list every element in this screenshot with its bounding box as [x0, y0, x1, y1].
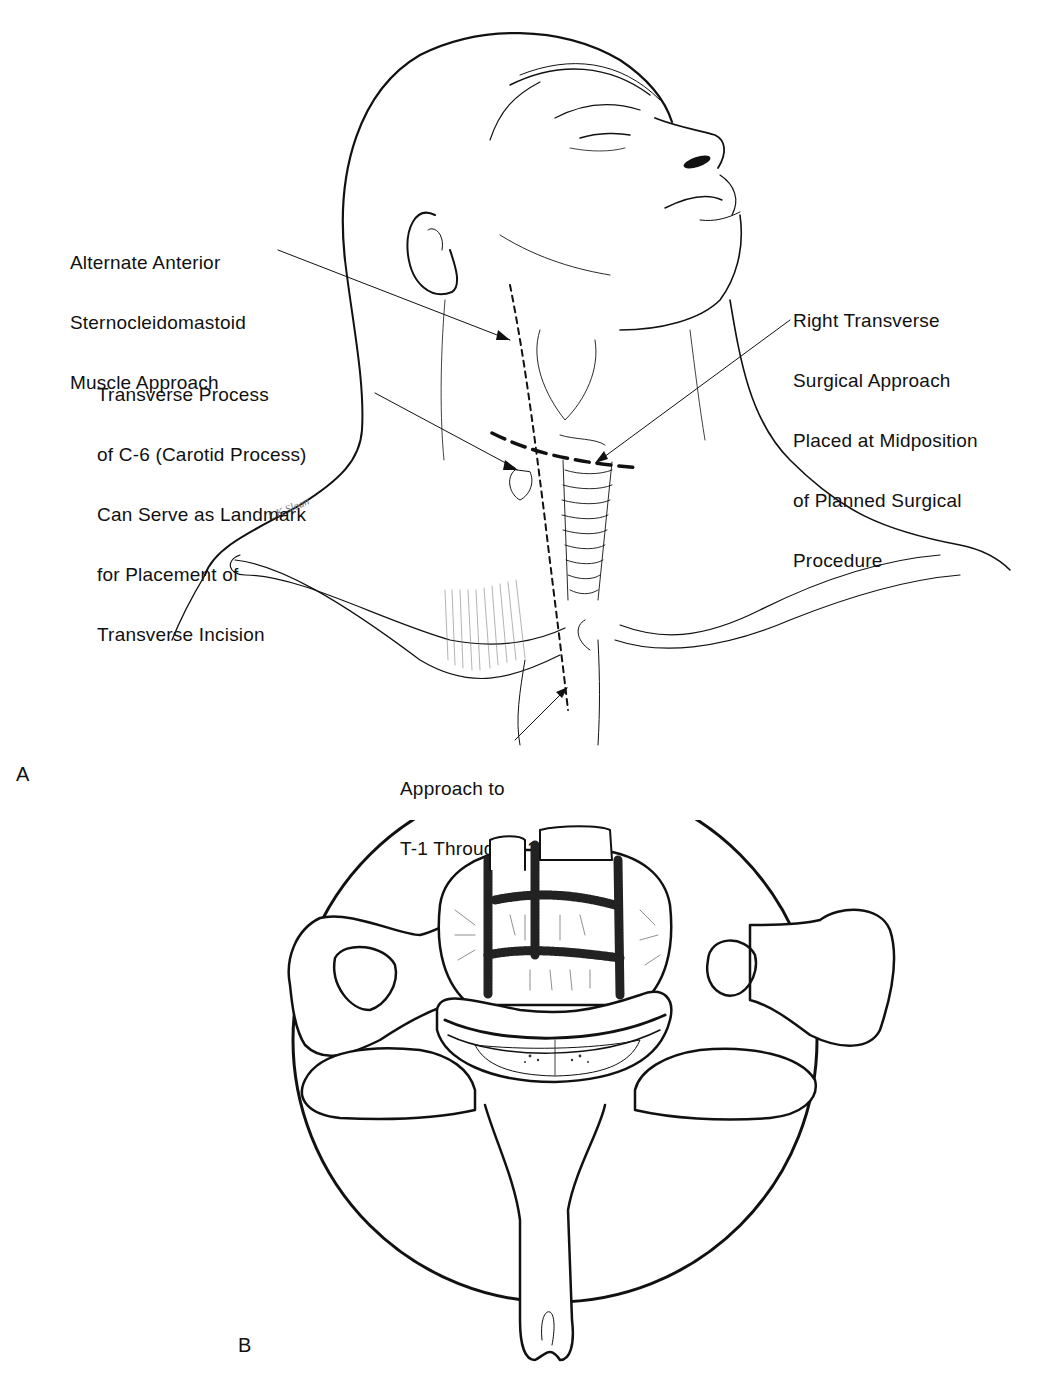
leader-c6 [375, 393, 515, 468]
leader-scm [278, 250, 510, 340]
label-transverse-process-c6: Transverse Process of C-6 (Carotid Proce… [97, 345, 307, 685]
sternocleidomastoid-incision-line [510, 285, 568, 710]
leader-right-transverse [600, 320, 790, 460]
leader-t1 [515, 690, 565, 740]
figure: Ɛ.K.Sloan Alternate Anterior Sternocleid… [0, 0, 1049, 1393]
label-right-transverse-approach: Right Transverse Surgical Approach Place… [793, 271, 978, 611]
figure-caption-partial [0, 1378, 1049, 1393]
panel-b-illustration [0, 820, 1049, 1380]
panel-a-letter: A [16, 763, 29, 786]
transverse-incision-line [492, 433, 640, 468]
nostril [682, 153, 712, 171]
panel-b-letter: B [238, 1334, 251, 1357]
